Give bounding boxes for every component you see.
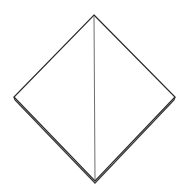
diagram-canvas [0,0,189,194]
folded-diamond-diagram [0,0,189,194]
